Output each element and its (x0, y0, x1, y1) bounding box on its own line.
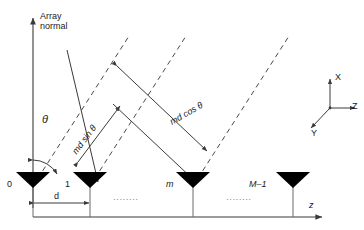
element-label-m: m (166, 179, 174, 189)
ellipsis-group-2: · · · · · · · · (226, 195, 250, 205)
array-normal-label: Array normal (40, 11, 68, 32)
theta-label: θ (42, 113, 48, 126)
spacing-d-label: d (54, 191, 59, 201)
element-stems (33, 186, 293, 217)
array-normal-line1: Array (40, 11, 68, 21)
antenna-element (276, 172, 310, 188)
axis-label-z-baseline: z (309, 200, 314, 210)
antenna-array-diagram: Array normal θ md sin θ md cos θ d 0 1 m… (0, 0, 364, 230)
element-label-0: 0 (7, 179, 12, 189)
element-label-M-minus-1: M–1 (249, 179, 267, 189)
ellipsis-group-1: · · · · · · · · (113, 195, 137, 205)
array-normal-line2: normal (40, 21, 68, 31)
element-label-1: 1 (65, 179, 70, 189)
antenna-element (73, 172, 107, 188)
triad-label-x: X (335, 72, 341, 82)
coordinate-triad (311, 79, 355, 128)
antenna-element (16, 172, 50, 188)
triad-label-y: Y (311, 128, 317, 138)
triad-label-z: Z (352, 101, 358, 111)
antenna-element (176, 172, 210, 188)
incident-wave-dashed-rays (33, 36, 289, 186)
